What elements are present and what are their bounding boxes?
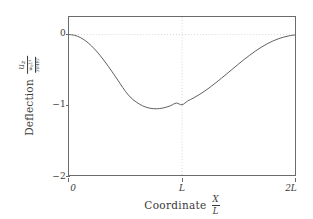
y-tick-label: −2	[52, 172, 66, 181]
L-exponent: 4	[28, 60, 32, 62]
y-axis-fraction-denominator: w0L4 384EI	[29, 56, 41, 74]
plot-area	[68, 16, 296, 176]
y-axis-title-fraction: uz w0L4 384EI	[17, 56, 41, 74]
w-symbol: w	[29, 67, 34, 71]
y-axis-fraction-numerator: uz	[17, 60, 26, 71]
x-tick-mark	[295, 178, 296, 182]
y-axis-title: Deflection uz w0L4 384EI	[12, 16, 46, 176]
y-tick-label: −1	[52, 100, 66, 109]
deflection-chart-figure: 0−1−2 Deflection uz w0L4 384EI	[0, 0, 313, 219]
x-axis-title-fraction: X L	[212, 195, 220, 215]
nested-denominator: 384EI	[36, 57, 41, 73]
y-axis-title-text: Deflection	[23, 79, 35, 136]
x-tick-label: 2L	[285, 183, 297, 193]
y-tick-mark	[66, 176, 70, 177]
nested-numerator: w0L4	[29, 59, 34, 72]
uz-symbol: u	[16, 64, 26, 69]
x-axis-title-text: Coordinate	[144, 199, 206, 211]
x-tick-mark	[68, 178, 69, 182]
plot-svg	[69, 17, 295, 175]
y-axis-nested-fraction: w0L4 384EI	[29, 57, 41, 73]
x-axis-fraction-denominator: L	[212, 207, 220, 216]
x-axis-tick-labels: 0L2L	[68, 178, 296, 192]
x-tick-mark	[182, 178, 183, 182]
w-subscript: 0	[30, 65, 34, 67]
L-symbol: L	[29, 62, 34, 65]
x-axis-title: Coordinate X L	[68, 194, 296, 216]
uz-subscript: z	[19, 61, 26, 64]
x-tick-label: L	[179, 183, 185, 193]
x-axis-fraction-numerator: X	[212, 195, 220, 204]
gridlines	[69, 17, 295, 175]
x-tick-label: 0	[70, 183, 76, 193]
